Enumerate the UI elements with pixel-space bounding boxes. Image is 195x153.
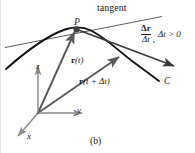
z-axis-label: z xyxy=(36,62,40,71)
difference-quotient-denominator: Δt xyxy=(141,34,151,45)
difference-quotient-condition: Δt > 0 xyxy=(158,29,181,39)
tangent-label: tangent xyxy=(97,3,126,13)
difference-quotient-expression: Δr Δt , Δt > 0 xyxy=(140,24,181,45)
vector-r-of-t-argument: (t) xyxy=(75,55,84,65)
figure-caption: (b) xyxy=(90,137,101,147)
vector-calculus-figure: tangent P C r(t) r(t + Δt) Δr Δt , Δt > … xyxy=(0,0,195,153)
origin-marker xyxy=(37,112,40,115)
vector-r-of-t-label: r(t) xyxy=(71,56,84,65)
point-p-label: P xyxy=(74,18,80,28)
x-axis-label: x xyxy=(27,132,31,141)
difference-quotient-fraction: Δr Δt xyxy=(140,24,152,45)
difference-quotient-numerator: Δr xyxy=(140,24,152,34)
y-axis-label: y xyxy=(77,106,81,115)
vector-r-of-t-plus-dt-label: r(t + Δt) xyxy=(79,77,110,86)
curve-c-label: C xyxy=(164,77,170,87)
vector-r-of-t-plus-dt-argument: (t + Δt) xyxy=(83,76,110,86)
